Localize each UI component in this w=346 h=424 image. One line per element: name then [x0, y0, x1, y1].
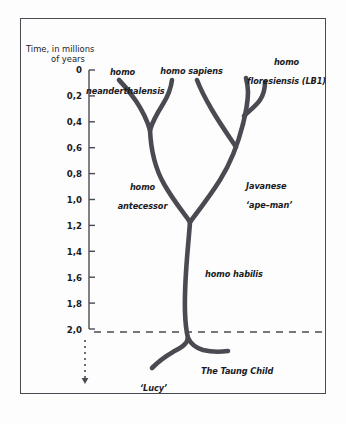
- branch-upper-right-limb: [197, 80, 236, 147]
- axis-ticks: [89, 70, 95, 329]
- label-homo-sapiens-line-1: homo sapiens: [160, 66, 223, 76]
- label-the-taung-child-line-1: The Taung Child: [201, 366, 273, 376]
- label-homo-habilis-line-1: homo habilis: [205, 269, 263, 279]
- label-homo-neanderthalensis-line-1: homo: [110, 67, 135, 77]
- label-homo-antecessor: homo antecessor: [101, 174, 173, 221]
- branch-homo-habilis-stem: [185, 222, 190, 338]
- branch-lucy: [152, 338, 188, 368]
- tick-label-10: 1,0: [56, 195, 82, 205]
- label-lucy: ‘Lucy’: [125, 375, 171, 403]
- label-homo-neanderthalensis: homo neanderthalensis: [75, 59, 159, 106]
- tick-label-08: 0,8: [56, 169, 82, 179]
- branch-taung-child: [188, 338, 228, 352]
- tick-label-18: 1,8: [56, 299, 82, 309]
- label-the-taung-child: The Taung Child: [190, 358, 296, 386]
- label-homo-sapiens: homo sapiens: [148, 58, 224, 86]
- axis-title-line-1: Time, in millions: [26, 44, 94, 54]
- label-homo-floresiensis: homo floresiensis (LB1): [236, 49, 326, 96]
- tick-label-04: 0,4: [56, 117, 82, 127]
- label-homo-floresiensis-line-1: homo: [274, 57, 299, 67]
- label-homo-antecessor-line-2: antecessor: [118, 201, 168, 211]
- label-homo-antecessor-line-1: homo: [130, 182, 155, 192]
- tick-label-06: 0,6: [56, 143, 82, 153]
- tick-label-14: 1,4: [56, 247, 82, 257]
- dotted-arrow-head: [82, 378, 89, 384]
- label-homo-habilis: homo habilis: [194, 261, 272, 289]
- label-homo-neanderthalensis-line-2: neanderthalensis: [86, 86, 165, 96]
- label-javanese-ape-man-line-1: Javanese: [246, 181, 286, 191]
- tick-label-16: 1,6: [56, 273, 82, 283]
- figure-container: Time, in millions of years 0 0,2 0,4 0,6…: [0, 0, 346, 424]
- label-lucy-line-1: ‘Lucy’: [140, 383, 167, 393]
- label-javanese-ape-man: Javanese ‘ape–man’: [235, 173, 311, 220]
- tick-label-12: 1,2: [56, 221, 82, 231]
- label-homo-floresiensis-line-2: floresiensis (LB1): [247, 76, 326, 86]
- tick-label-20: 2,0: [56, 325, 82, 335]
- label-javanese-ape-man-line-2: ‘ape–man’: [246, 200, 292, 210]
